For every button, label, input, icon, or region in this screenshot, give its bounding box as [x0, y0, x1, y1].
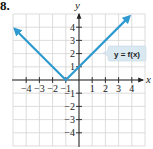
y-tick-label: 2: [70, 48, 75, 59]
x-tick-label: −3: [34, 83, 45, 94]
x-tick-label: 4: [129, 83, 134, 94]
function-label: y = f(x): [114, 50, 140, 59]
y-tick-label: −2: [64, 101, 75, 112]
x-tick-label: −2: [47, 83, 58, 94]
x-tick-label: 1: [90, 83, 95, 94]
x-tick-label: −4: [21, 83, 32, 94]
y-tick-label: 3: [70, 35, 75, 46]
y-tick-label: −3: [64, 114, 75, 125]
x-axis-label: x: [145, 73, 151, 85]
graph: xy −4−3−2−112344321−1−2−3−4 y = f(x): [0, 0, 153, 149]
y-tick-label: −4: [64, 127, 75, 138]
y-axis-label: y: [74, 0, 80, 11]
x-tick-label: 3: [116, 83, 121, 94]
y-tick-label: −1: [64, 88, 75, 99]
y-tick-label: 4: [70, 22, 75, 33]
function-label-callout: y = f(x): [103, 46, 146, 61]
axes: xy: [12, 0, 151, 147]
x-tick-label: 2: [103, 83, 108, 94]
